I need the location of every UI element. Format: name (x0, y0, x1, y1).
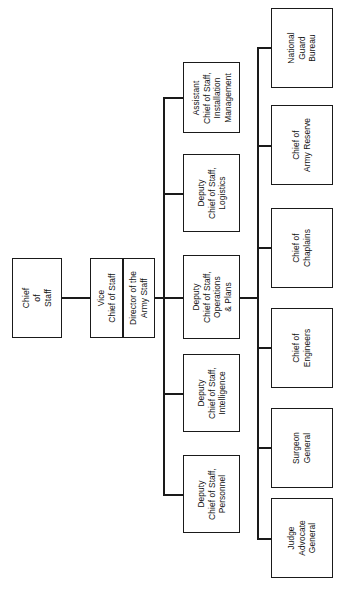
node-chief-of-staff[interactable]: Chief of Staff (12, 258, 62, 338)
connector-root-to-vice (62, 297, 91, 299)
node-vice-chief-group: Vice Chief of Staff Director of the Army… (90, 258, 155, 338)
node-dcs-personnel-label: Deputy Chief of Staff, Personnel (196, 468, 228, 520)
node-dcs-logistics-label: Deputy Chief of Staff, Logistics (196, 167, 228, 219)
stub-chief-of-chaplains (257, 247, 271, 249)
node-national-guard-bureau-label: National Guard Bureau (286, 32, 318, 63)
node-chief-of-chaplains-label: Chief of Chaplains (291, 229, 312, 267)
node-dcs-personnel[interactable]: Deputy Chief of Staff, Personnel (183, 455, 240, 533)
stub-logistics (163, 193, 183, 195)
node-chief-of-chaplains[interactable]: Chief of Chaplains (271, 208, 333, 288)
stub-chief-army-reserve (257, 145, 271, 147)
node-vice-chief-of-staff[interactable]: Vice Chief of Staff (91, 259, 122, 337)
stub-judge-advocate-general (257, 538, 271, 540)
node-dcs-operations-plans-label: Deputy Chief of Staff, Operations & Plan… (190, 271, 232, 323)
node-chief-of-engineers-label: Chief of Engineers (291, 329, 312, 367)
node-surgeon-general-label: Surgeon General (291, 432, 312, 464)
stub-chief-of-engineers (257, 347, 271, 349)
node-chief-of-staff-label: Chief of Staff (21, 288, 54, 308)
node-chief-of-engineers[interactable]: Chief of Engineers (271, 308, 333, 388)
node-director-army-staff-label: Director of the Army Staff (128, 271, 149, 325)
node-dcs-operations-plans[interactable]: Deputy Chief of Staff, Operations & Plan… (183, 255, 240, 339)
node-chief-army-reserve[interactable]: Chief of Army Reserve (271, 105, 333, 185)
node-dcs-logistics[interactable]: Deputy Chief of Staff, Logistics (183, 154, 240, 232)
node-judge-advocate-general[interactable]: Judge Advocate General (271, 498, 333, 578)
node-judge-advocate-general-label: Judge Advocate General (286, 520, 318, 556)
node-dcs-intelligence-label: Deputy Chief of Staff, Intelligence (196, 367, 228, 419)
stub-installation-management (163, 97, 183, 99)
node-dcs-intelligence[interactable]: Deputy Chief of Staff, Intelligence (183, 354, 240, 432)
stub-personnel (163, 494, 183, 496)
stub-intelligence (163, 393, 183, 395)
staff-trunk (163, 97, 165, 495)
stub-surgeon-general (257, 447, 271, 449)
node-national-guard-bureau[interactable]: National Guard Bureau (271, 8, 333, 88)
special-staff-trunk (257, 47, 259, 538)
org-chart: Chief of Staff Vice Chief of Staff Direc… (0, 0, 355, 591)
node-vice-chief-of-staff-label: Vice Chief of Staff (96, 273, 117, 322)
node-chief-army-reserve-label: Chief of Army Reserve (291, 118, 312, 172)
node-acs-installation-management[interactable]: Assistant Chief of Staff, Installation M… (183, 62, 240, 133)
stub-national-guard-bureau (257, 47, 271, 49)
node-director-army-staff[interactable]: Director of the Army Staff (124, 259, 154, 337)
stub-operations-plans (163, 297, 183, 299)
node-surgeon-general[interactable]: Surgeon General (271, 408, 333, 488)
node-acs-installation-management-label: Assistant Chief of Staff, Installation M… (190, 72, 232, 124)
connector-spine-to-special-trunk (240, 297, 258, 299)
